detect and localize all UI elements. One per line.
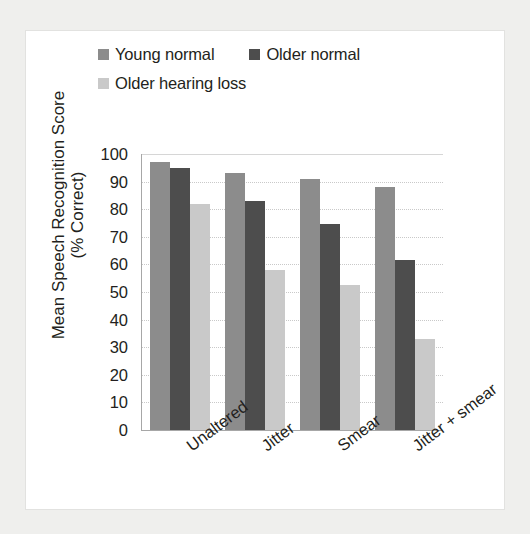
- bar: [265, 270, 285, 430]
- bar: [245, 201, 265, 430]
- bar: [190, 204, 210, 430]
- bar: [170, 168, 190, 430]
- bar-group: [142, 154, 217, 430]
- bar: [395, 260, 415, 430]
- y-tick-label: 10: [110, 393, 128, 412]
- bar: [320, 224, 340, 430]
- bar: [225, 173, 245, 430]
- y-axis-title: Mean Speech Recognition Score (% Correct…: [49, 85, 87, 345]
- y-axis-tick-labels: 1009080706050403020100: [88, 154, 132, 430]
- bar: [150, 162, 170, 430]
- plot-area: Mean Speech Recognition Score (% Correct…: [26, 31, 504, 509]
- y-tick-label: 20: [110, 365, 128, 384]
- y-tick-label: 80: [110, 200, 128, 219]
- chart-page: Young normal Older normal Older hearing …: [0, 0, 530, 534]
- plot-grid: [141, 154, 443, 431]
- y-tick-label: 60: [110, 255, 128, 274]
- bar: [300, 179, 320, 430]
- y-tick-label: 40: [110, 310, 128, 329]
- bar: [375, 187, 395, 430]
- bar-group: [293, 154, 368, 430]
- bar: [415, 339, 435, 430]
- y-tick-label: 0: [119, 421, 128, 440]
- y-tick-label: 30: [110, 338, 128, 357]
- y-axis-title-line-1: Mean Speech Recognition Score: [49, 85, 68, 345]
- bar-group: [368, 154, 443, 430]
- y-tick-label: 70: [110, 227, 128, 246]
- y-axis-title-line-2: (% Correct): [68, 85, 87, 345]
- x-axis-tick-labels: UnalteredJitterSmearJitter + smear: [141, 432, 442, 532]
- chart-card: Young normal Older normal Older hearing …: [26, 31, 504, 509]
- bar: [340, 285, 360, 430]
- y-tick-label: 90: [110, 172, 128, 191]
- bar-group: [217, 154, 292, 430]
- y-tick-label: 100: [100, 145, 128, 164]
- bar-groups: [142, 154, 443, 430]
- y-tick-label: 50: [110, 283, 128, 302]
